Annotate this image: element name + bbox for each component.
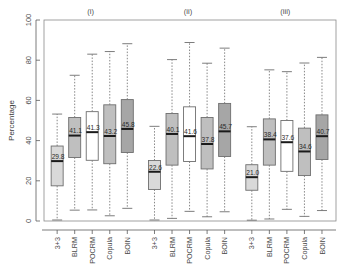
median-value-label: 45.7 [219,123,232,130]
box-rect[interactable] [86,112,98,161]
median-value-label: 45.8 [122,121,135,128]
box-rect[interactable] [281,121,293,172]
x-axis-category-label: POCRM [88,237,97,264]
boxplot-box[interactable]: 45.8 [121,44,135,209]
boxplot-box[interactable]: 38.4 [263,70,277,219]
group-label: (i) [87,7,94,16]
median-value-label: 41.1 [69,127,82,134]
median-value-label: 22.6 [149,164,162,171]
y-axis-tick-label: 100 [24,14,33,27]
y-axis-tick-label: 80 [24,56,33,64]
box-rect[interactable] [166,113,178,165]
x-axis-category-label: BOIN [123,237,132,255]
boxplot-box[interactable]: 34.6 [298,63,312,216]
median-value-label: 43.2 [104,128,117,135]
x-axis-category-label: BLRM [168,237,177,257]
boxplot-box[interactable]: 41.1 [69,75,83,210]
box-rect[interactable] [263,119,275,165]
median-value-label: 21.0 [246,169,259,176]
boxplot-box[interactable]: 37.6 [281,72,295,210]
boxplot-box[interactable]: 41.6 [184,43,198,212]
median-value-label: 29.8 [52,153,65,160]
median-value-label: 34.6 [299,143,312,150]
median-value-label: 41.6 [184,128,197,135]
x-axis-category-label: BLRM [265,237,274,257]
boxplot-box[interactable]: 29.8 [51,114,65,220]
boxplot-box[interactable]: 40.1 [166,60,180,219]
boxplot-box[interactable]: 40.7 [316,57,330,210]
median-value-label: 40.1 [167,126,180,133]
y-axis-tick-label: 40 [24,136,33,144]
y-axis-title: Percentage [7,99,16,140]
x-axis-category-label: BLRM [70,237,79,257]
boxplot-box[interactable]: 45.7 [219,48,233,212]
median-value-label: 41.3 [87,124,100,131]
chart-canvas: 020406080100Percentage(i)3+329.8BLRM41.1… [0,0,347,280]
box-rect[interactable] [69,117,81,157]
box-rect[interactable] [316,115,328,160]
x-axis-category-label: 3+3 [150,237,159,249]
x-axis-category-label: BOIN [220,237,229,255]
x-axis-category-label: Copula [203,237,212,260]
x-axis-category-label: BOIN [318,237,327,255]
median-value-label: 38.4 [264,131,277,138]
boxplot-figure: 020406080100Percentage(i)3+329.8BLRM41.1… [0,0,347,280]
boxplot-box[interactable]: 22.6 [148,126,162,220]
boxplot-box[interactable]: 43.2 [104,52,118,216]
x-axis-category-label: 3+3 [247,237,256,249]
x-axis-category-label: POCRM [282,237,291,264]
y-axis-tick-label: 20 [24,177,33,185]
x-axis-category-label: 3+3 [53,237,62,249]
group-label: (ii) [184,7,193,16]
y-axis-tick-label: 0 [24,219,33,223]
boxplot-box[interactable]: 41.3 [86,54,100,210]
median-value-label: 40.7 [316,128,329,135]
boxplot-box[interactable]: 21.0 [246,127,260,220]
median-value-label: 37.6 [281,134,294,141]
x-axis-category-label: POCRM [185,237,194,264]
boxplot-box[interactable]: 37.8 [201,63,215,217]
y-axis-tick-label: 60 [24,96,33,104]
group-label: (iii) [280,7,290,16]
median-value-label: 37.8 [202,136,215,143]
x-axis-category-label: Copula [105,237,114,260]
x-axis-category-label: Copula [300,237,309,260]
